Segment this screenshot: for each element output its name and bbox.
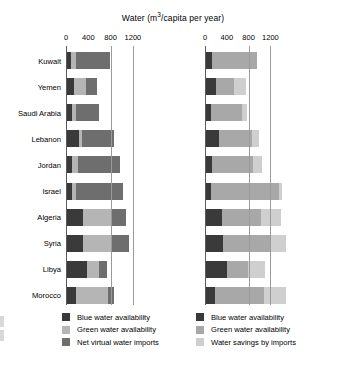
legend-swatch-green-water-availability [196, 326, 204, 334]
legend-label: Blue water availability [211, 314, 284, 322]
bar-segment-green-water-availability [83, 209, 112, 226]
bar-row [0, 204, 185, 230]
bar-segment-green-water-availability [87, 261, 99, 278]
x-tick-label-left-400: 400 [82, 33, 95, 42]
bar-segment-water-savings-by-imports [264, 287, 286, 304]
bar-row [0, 256, 185, 282]
bar-segment-net-virtual-water-imports [82, 130, 113, 147]
bar-segment-green-water-availability [222, 209, 260, 226]
stacked-bar-left-syria [66, 235, 129, 252]
bar-segment-blue-water-availability [205, 235, 223, 252]
bar-row [0, 152, 185, 178]
bar-segment-green-water-availability [76, 287, 108, 304]
bar-segment-green-water-availability [74, 78, 86, 95]
x-tick-label-right-0: 0 [203, 33, 207, 42]
gridline-right-1200 [270, 46, 271, 305]
bar-segment-green-water-availability [83, 235, 112, 252]
legend-item: Water savings by imports [196, 336, 296, 349]
bar-segment-blue-water-availability [66, 209, 83, 226]
legend-label: Green water availability [211, 326, 290, 334]
x-tick-label-right-400: 400 [221, 33, 234, 42]
bar-segment-green-water-availability [227, 261, 248, 278]
bar-row [0, 100, 185, 126]
stacked-bar-right-jordan [205, 156, 262, 173]
bar-segment-water-savings-by-imports [271, 235, 287, 252]
bar-segment-green-water-availability [212, 156, 254, 173]
legend-label: Water savings by imports [211, 339, 296, 347]
stacked-bar-left-israel [66, 183, 123, 200]
bar-row [185, 126, 346, 152]
bar-row [185, 178, 346, 204]
bar-segment-green-water-availability [223, 235, 271, 252]
legend-label: Net virtual water imports [77, 339, 159, 347]
legend-item: Net virtual water imports [62, 336, 159, 349]
bar-row [0, 48, 185, 74]
bar-segment-water-savings-by-imports [248, 261, 265, 278]
legend-label: Blue water availability [77, 314, 150, 322]
bar-segment-net-virtual-water-imports [99, 261, 107, 278]
bar-segment-net-virtual-water-imports [112, 235, 129, 252]
legend-label: Green water availability [77, 326, 156, 334]
bar-segment-blue-water-availability [205, 78, 216, 95]
bar-segment-water-savings-by-imports [242, 104, 247, 121]
x-tick-label-right-800: 800 [242, 33, 255, 42]
bar-segment-net-virtual-water-imports [76, 183, 123, 200]
bar-row [185, 230, 346, 256]
y-axis-line-left [66, 46, 67, 305]
legend-swatch-green-water-availability [62, 326, 70, 334]
right-bar-rows [185, 46, 346, 305]
x-tick-label-left-800: 800 [104, 33, 117, 42]
plot-baseline-left [66, 304, 144, 305]
bar-segment-net-virtual-water-imports [78, 156, 119, 173]
stacked-bar-right-morocco [205, 287, 286, 304]
bar-segment-blue-water-availability [205, 209, 222, 226]
bar-row [0, 230, 185, 256]
right-x-axis-ticks: 04008001200 [185, 33, 346, 46]
bar-segment-green-water-availability [219, 130, 252, 147]
legend-swatch-blue-water-availability [196, 313, 204, 321]
bar-segment-blue-water-availability [66, 235, 83, 252]
legend-item: Blue water availability [196, 311, 296, 324]
bar-segment-blue-water-availability [66, 78, 74, 95]
left-chart-panel: 04008001200 [0, 33, 185, 305]
bar-segment-blue-water-availability [205, 287, 215, 304]
bar-row [185, 256, 346, 282]
bar-row [0, 126, 185, 152]
legend-swatch-water-savings-by-imports [196, 338, 204, 346]
bar-segment-water-savings-by-imports [279, 183, 282, 200]
bar-segment-green-water-availability [211, 183, 279, 200]
stacked-bar-right-syria [205, 235, 286, 252]
right-plot-area [185, 46, 346, 305]
legend-item: Green water availability [62, 324, 159, 337]
y-axis-line-right [205, 46, 206, 305]
left-x-axis-ticks: 04008001200 [0, 33, 185, 46]
stacked-bar-right-lebanon [205, 130, 259, 147]
bar-row [0, 74, 185, 100]
bar-row [185, 74, 346, 100]
left-legend: Blue water availabilityGreen water avail… [62, 311, 159, 349]
bar-segment-blue-water-availability [205, 130, 219, 147]
bar-segment-green-water-availability [212, 52, 258, 69]
bar-row [185, 48, 346, 74]
bar-segment-blue-water-availability [66, 287, 76, 304]
stacked-bar-right-yemen [205, 78, 246, 95]
stacked-bar-left-kuwait [66, 52, 110, 69]
scan-artifact [0, 316, 4, 327]
legend-swatch-blue-water-availability [62, 313, 70, 321]
bar-segment-water-savings-by-imports [252, 130, 259, 147]
bar-segment-net-virtual-water-imports [76, 104, 99, 121]
bar-segment-blue-water-availability [205, 261, 227, 278]
bar-segment-water-savings-by-imports [234, 78, 246, 95]
x-tick-label-left-1200: 1200 [125, 33, 142, 42]
stacked-bar-left-yemen [66, 78, 97, 95]
stacked-bar-left-algeria [66, 209, 126, 226]
stacked-bar-right-saudi-arabia [205, 104, 247, 121]
bar-row [185, 152, 346, 178]
bar-segment-net-virtual-water-imports [76, 52, 110, 69]
bar-row [185, 204, 346, 230]
bar-row [185, 100, 346, 126]
stacked-bar-left-saudi-arabia [66, 104, 99, 121]
stacked-bar-left-lebanon [66, 130, 114, 147]
gridline-right-800 [249, 46, 250, 305]
stacked-bar-left-morocco [66, 287, 114, 304]
